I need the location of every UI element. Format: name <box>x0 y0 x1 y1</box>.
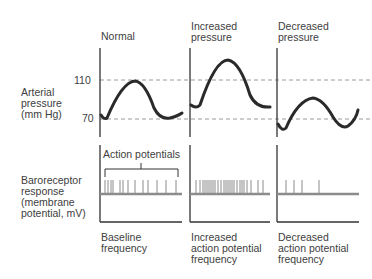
bottom-normal-2: frequency <box>101 243 147 255</box>
bottom-increased-3: frequency <box>191 254 237 266</box>
spikes-increased <box>196 180 263 194</box>
spikes-decreased <box>286 180 319 194</box>
tick-110: 110 <box>74 75 91 87</box>
action-potentials-label: Action potentials <box>103 149 180 161</box>
panel-title-decreased-2: pressure <box>278 32 319 44</box>
baroreceptor-label-4: potential, mV) <box>21 208 86 220</box>
bottom-decreased-3: frequency <box>278 254 324 266</box>
tick-70: 70 <box>82 113 94 125</box>
decreased-curve <box>278 98 358 129</box>
arterial-label-3: (mm Hg) <box>21 109 62 121</box>
panel-title-increased-2: pressure <box>191 32 232 44</box>
panel-title-normal: Normal <box>101 31 135 43</box>
increased-curve <box>191 60 270 107</box>
action-potentials-bracket <box>105 163 178 177</box>
spikes-normal <box>105 180 176 194</box>
normal-curve <box>101 81 182 119</box>
